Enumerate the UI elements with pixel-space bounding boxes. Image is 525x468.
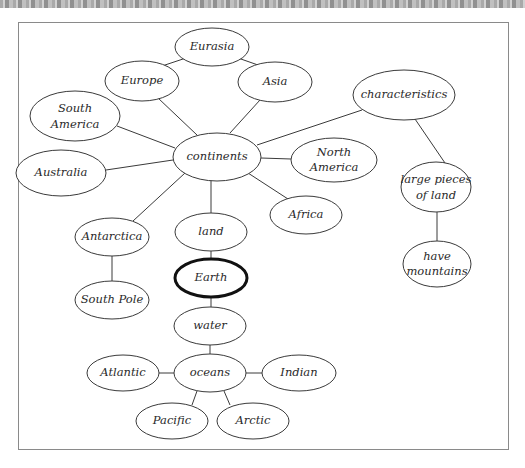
node-label-line1: have (423, 249, 451, 263)
node-asia: Asia (238, 62, 312, 102)
node-label: Africa (288, 207, 324, 221)
node-oceans: oceans (174, 354, 246, 392)
node-label-line2: America (309, 160, 359, 174)
node-earth: Earth (175, 259, 247, 297)
node-label-line2: America (50, 117, 100, 131)
node-label: land (198, 224, 223, 238)
node-label: Asia (262, 74, 288, 88)
node-indian: Indian (262, 355, 336, 391)
edge-africa-continents (248, 173, 288, 199)
edge-antarctica-continents (133, 173, 185, 221)
node-label-line1: large pieces (401, 172, 472, 186)
node-label: Earth (194, 270, 228, 284)
node-label: water (193, 318, 228, 332)
node-label: South Pole (81, 292, 144, 306)
node-north-america: North America (291, 138, 377, 182)
concept-map: Eurasia Europe Asia South America charac… (0, 0, 525, 468)
node-label: Pacific (152, 413, 192, 427)
node-pacific: Pacific (136, 403, 208, 439)
edge-oceans-arctic (224, 391, 230, 405)
edge-asia-continents (230, 100, 260, 133)
node-label: Europe (120, 73, 164, 87)
node-eurasia: Eurasia (175, 28, 249, 66)
node-label: Eurasia (189, 39, 235, 53)
node-label: Arctic (235, 413, 272, 427)
node-label: continents (186, 149, 247, 163)
node-land: land (175, 213, 247, 251)
node-label: Atlantic (99, 365, 146, 379)
node-arctic: Arctic (217, 403, 289, 439)
node-characteristics: characteristics (353, 70, 455, 120)
node-label: Antarctica (81, 229, 143, 243)
node-atlantic: Atlantic (87, 355, 159, 391)
edge-southamerica-continents (117, 126, 175, 148)
node-antarctica: Antarctica (75, 218, 149, 256)
node-label: Australia (34, 165, 88, 179)
edge-northamerica-continents (261, 158, 291, 159)
edge-oceans-pacific (192, 391, 197, 405)
node-australia: Australia (16, 150, 106, 196)
node-south-america: South America (30, 91, 120, 141)
node-europe: Europe (105, 61, 179, 101)
node-label-line1: South (58, 101, 92, 115)
node-water: water (174, 307, 246, 345)
node-label-line2: mountains (406, 264, 467, 278)
node-africa: Africa (270, 196, 342, 234)
node-large-pieces-of-land: large pieces of land (401, 162, 472, 212)
edge-characteristics-largepieces (415, 119, 445, 163)
node-label: oceans (190, 365, 230, 379)
node-continents: continents (173, 133, 261, 181)
edge-australia-continents (106, 160, 173, 170)
node-label: characteristics (361, 87, 448, 101)
edge-eurasia-europe (162, 58, 186, 66)
edge-europe-continents (158, 98, 197, 135)
node-have-mountains: have mountains (403, 241, 471, 287)
node-label: Indian (279, 365, 317, 379)
node-south-pole: South Pole (75, 281, 149, 319)
node-label-line1: North (316, 145, 352, 159)
node-label-line2: of land (416, 188, 456, 202)
